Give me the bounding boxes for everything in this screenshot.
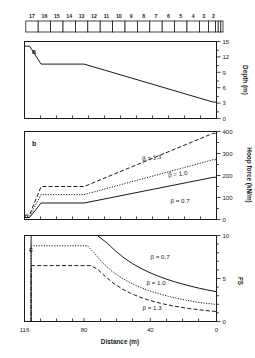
segment-cell — [100, 21, 112, 32]
segment-label: 7 — [155, 13, 158, 19]
segment-cell — [75, 21, 87, 32]
segment-cell — [150, 21, 162, 32]
panel-a-ytick: 9 — [223, 70, 227, 76]
panel-c-yaxis: 0 5 10 — [217, 233, 230, 325]
segment-label: 12 — [91, 13, 97, 19]
segment-cell — [175, 21, 187, 32]
segment-cell-narrow — [221, 21, 223, 32]
panel-c-xticks — [25, 318, 217, 322]
segment-cells — [26, 21, 223, 32]
xaxis-title: Distance (m) — [101, 338, 139, 346]
panel-c-ylabel: FS — [237, 277, 244, 286]
figure-svg: 17 16 15 14 13 12 11 10 9 8 7 6 5 4 3 2 — [0, 0, 255, 358]
panel-c-ytick: 5 — [223, 276, 227, 282]
segment-label: 10 — [116, 13, 122, 19]
panel-b-ytick: 0 — [223, 217, 227, 223]
panel-a-ytick: 12 — [223, 54, 230, 60]
panel-b-frame — [25, 132, 217, 220]
segment-cell — [38, 21, 50, 32]
panel-b-ytick: 300 — [223, 151, 234, 157]
xaxis-labels: 116 80 40 0 — [20, 327, 219, 333]
segment-label: 13 — [79, 13, 85, 19]
panel-a-ytick: 0 — [223, 116, 227, 122]
segment-label: 14 — [66, 13, 72, 19]
label-c-beta-1-3: β = 1.3 — [142, 304, 162, 311]
segment-cell — [113, 21, 125, 32]
segment-label: 3 — [202, 13, 205, 19]
segment-cell — [125, 21, 137, 32]
segment-label: 4 — [192, 13, 195, 19]
segment-label: 15 — [54, 13, 60, 19]
segment-cell — [208, 21, 215, 32]
panel-a-frame — [25, 42, 217, 119]
curve-beta-1-0 — [25, 160, 217, 217]
segment-label: 11 — [104, 13, 110, 19]
panel-b: b β = 1.3 β = 1.0 β = 0.7 0 — [25, 129, 254, 223]
segment-label: 9 — [130, 13, 133, 19]
xtick: 40 — [147, 327, 154, 333]
segment-label: 5 — [179, 13, 182, 19]
panel-b-ytick: 100 — [223, 195, 234, 201]
label-c-beta-1-0: β = 1.0 — [146, 279, 166, 286]
panel-b-yaxis: 0 100 200 300 400 — [217, 129, 234, 223]
label-c-beta-0-7: β = 0.7 — [150, 253, 170, 260]
label-beta-1-0: β = 1.0 — [168, 169, 188, 178]
panel-b-letter: b — [32, 140, 36, 147]
depth-profile-curve — [25, 46, 217, 102]
segment-cell — [199, 21, 208, 32]
panel-c-ytick: 10 — [223, 233, 230, 239]
segment-cell — [162, 21, 174, 32]
panel-a-ytick: 6 — [223, 85, 227, 91]
label-beta-1-3: β = 1.3 — [142, 153, 163, 163]
panel-a: a 0 3 6 9 12 15 — [25, 39, 250, 122]
segment-cell — [88, 21, 100, 32]
segment-label: 8 — [142, 13, 145, 19]
segment-label: 2 — [212, 13, 215, 19]
panel-b-ytick: 200 — [223, 173, 234, 179]
panel-a-ylabel: Depth (m) — [241, 65, 249, 95]
segment-cell — [63, 21, 75, 32]
xtick: 116 — [20, 327, 30, 333]
figure-root: 17 16 15 14 13 12 11 10 9 8 7 6 5 4 3 2 — [0, 0, 255, 358]
segment-label: 17 — [29, 13, 35, 19]
panel-a-ytick: 15 — [223, 39, 230, 45]
panel-b-ylabel: Hoop force (kN/m) — [245, 147, 253, 202]
label-beta-0-7: β = 0.7 — [170, 197, 190, 204]
panel-b-ytick: 400 — [223, 129, 234, 135]
segment-cell — [137, 21, 149, 32]
pipe-segment-bar: 17 16 15 14 13 12 11 10 9 8 7 6 5 4 3 2 — [26, 13, 223, 32]
panel-a-yaxis: 0 3 6 9 12 15 — [217, 39, 230, 122]
segment-cell — [26, 21, 38, 32]
panel-a-ytick: 3 — [223, 100, 227, 106]
segment-label: 16 — [42, 13, 48, 19]
segment-labels: 17 16 15 14 13 12 11 10 9 8 7 6 5 4 3 2 — [29, 13, 215, 19]
xtick: 80 — [81, 327, 88, 333]
segment-cell — [187, 21, 199, 32]
panel-c: c β = 0.7 β = 1.0 β = 1.3 — [20, 233, 244, 346]
curve-c-beta-1-3 — [31, 266, 216, 322]
segment-label: 6 — [167, 13, 170, 19]
panel-c-ytick: 0 — [223, 319, 227, 325]
xtick: 0 — [215, 327, 219, 333]
segment-cell — [51, 21, 63, 32]
